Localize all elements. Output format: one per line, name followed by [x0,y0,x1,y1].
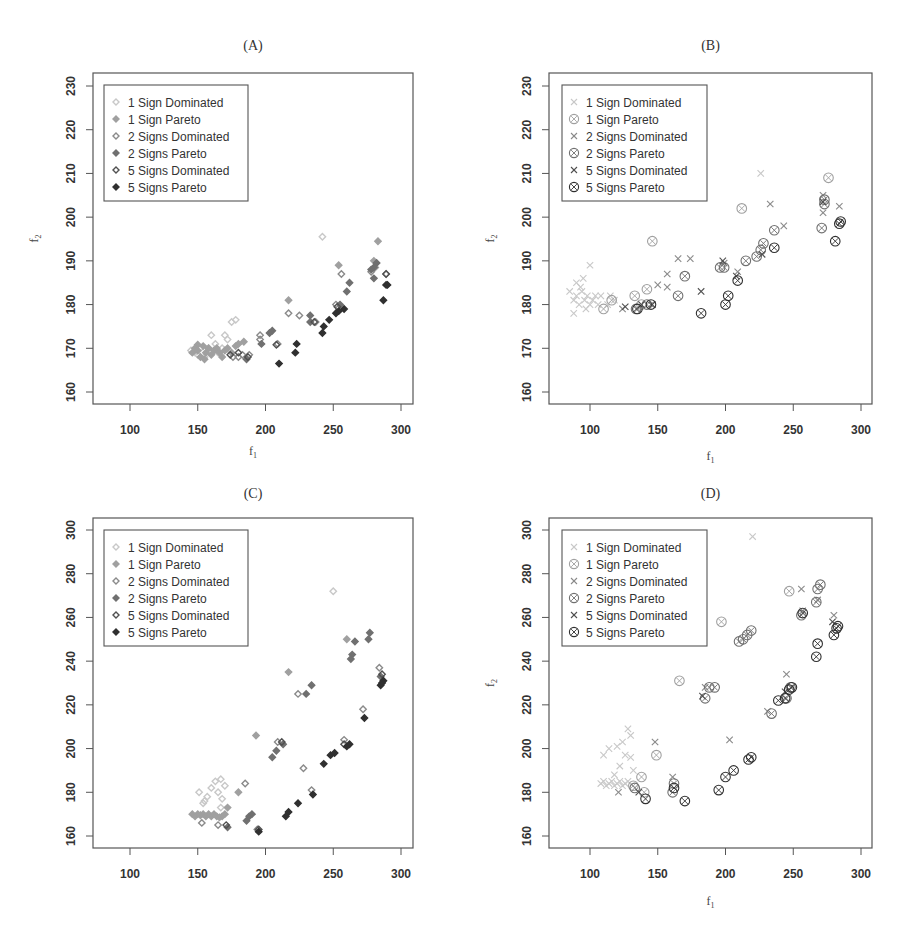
legend-entry: 5 Signs Pareto [128,181,207,195]
y-tick-label: 160 [64,382,78,402]
x-tick-label: 200 [255,867,275,881]
legend-entry: 1 Sign Pareto [586,558,659,572]
y-tick-label: 300 [64,520,78,540]
legend: 1 Sign Dominated1 Sign Pareto2 Signs Dom… [562,530,707,646]
y-tick-label: 220 [520,695,534,715]
y-tick-label: 240 [64,651,78,671]
x-axis: 100150200250300 [580,848,871,881]
x-tick-label: 300 [851,867,871,881]
legend-entry: 2 Signs Dominated [128,575,229,589]
series-1-sign-pareto [189,636,350,821]
x-tick-label: 100 [580,867,600,881]
x-tick-label: 200 [715,867,735,881]
series-5-signs-pareto [633,217,846,318]
y-tick-label: 170 [64,338,78,358]
panel-d: (D)1001502002503001601802002202402602803… [483,486,872,910]
y-tick-label: 220 [64,695,78,715]
y-tick-label: 200 [64,738,78,758]
y-tick-label: 160 [520,826,534,846]
legend-entry: 5 Signs Dominated [128,164,229,178]
x-tick-label: 100 [580,423,600,437]
y-tick-label: 260 [520,607,534,627]
legend-entry: 2 Signs Dominated [586,575,687,589]
panel-title: (C) [244,486,263,502]
series-5-signs-pareto [276,282,391,367]
y-tick-label: 180 [64,782,78,802]
y-tick-label: 200 [64,207,78,227]
legend-entry: 1 Sign Dominated [586,96,681,110]
legend-entry: 2 Signs Pareto [128,592,207,606]
panel-b: (B)1001502002503001601701801902002102202… [483,38,872,465]
y-axis: 160170180190200210220230 [520,76,549,402]
series-2-signs-pareto [224,630,384,831]
x-axis: 100150200250300 [120,404,411,437]
y-tick-label: 300 [520,520,534,540]
y-tick-label: 220 [64,119,78,139]
y-tick-label: 240 [520,651,534,671]
x-tick-label: 100 [120,423,140,437]
y-tick-label: 200 [520,738,534,758]
x-tick-label: 250 [323,867,343,881]
x-axis: 100150200250300 [580,404,871,437]
y-axis: 160170180190200210220230 [64,76,93,402]
legend: 1 Sign Dominated1 Sign Pareto2 Signs Dom… [104,530,248,646]
y-tick-label: 180 [520,782,534,802]
x-tick-label: 100 [120,867,140,881]
y-axis: 160180200220240260280300 [520,520,549,846]
panel-title: (B) [701,38,720,54]
x-axis-label: f1 [707,449,715,465]
y-tick-label: 180 [520,294,534,314]
legend-entry: 5 Signs Dominated [586,164,687,178]
legend-entry: 2 Signs Pareto [586,147,665,161]
y-tick-label: 220 [520,119,534,139]
legend: 1 Sign Dominated1 Sign Pareto2 Signs Dom… [562,85,707,201]
legend-entry: 2 Signs Dominated [586,130,687,144]
x-tick-label: 250 [783,423,803,437]
y-tick-label: 180 [64,294,78,314]
y-axis-label: f2 [483,679,499,687]
x-tick-label: 150 [648,867,668,881]
legend-entry: 2 Signs Pareto [586,592,665,606]
legend-entry: 1 Sign Dominated [128,541,223,555]
y-tick-label: 160 [520,382,534,402]
x-tick-label: 250 [323,423,343,437]
y-tick-label: 200 [520,207,534,227]
panel-a: (A)1001502002503001601701801902002102202… [27,38,413,460]
x-tick-label: 150 [648,423,668,437]
legend-entry: 2 Signs Dominated [128,130,229,144]
data-points [188,234,391,367]
y-axis-label: f2 [483,235,499,243]
y-tick-label: 190 [520,251,534,271]
y-tick-label: 280 [64,563,78,583]
series-2-signs-dominated [619,192,842,312]
y-axis: 160180200220240260280300 [64,520,93,846]
figure: (A)1001502002503001601701801902002102202… [0,0,913,941]
legend-entry: 5 Signs Pareto [586,181,665,195]
legend-entry: 2 Signs Pareto [128,147,207,161]
legend-entry: 5 Signs Dominated [586,609,687,623]
y-tick-label: 210 [64,163,78,183]
legend-entry: 1 Sign Dominated [128,96,223,110]
y-tick-label: 260 [64,607,78,627]
x-tick-label: 250 [783,867,803,881]
y-tick-label: 230 [64,76,78,96]
y-tick-label: 170 [520,338,534,358]
panel-title: (A) [243,38,263,54]
y-tick-label: 190 [64,251,78,271]
legend-entry: 5 Signs Dominated [128,609,229,623]
y-tick-label: 160 [64,826,78,846]
legend-entry: 1 Sign Dominated [586,541,681,555]
series-2-signs-pareto [631,195,829,314]
x-tick-label: 200 [715,423,735,437]
x-axis-label: f1 [249,444,257,460]
x-tick-label: 200 [255,423,275,437]
panel-title: (D) [701,486,721,502]
x-axis: 100150200250300 [120,848,411,881]
legend-entry: 1 Sign Pareto [128,558,201,572]
y-tick-label: 230 [520,76,534,96]
y-axis-label: f2 [27,235,43,243]
x-tick-label: 300 [851,423,871,437]
y-tick-label: 210 [520,163,534,183]
legend-entry: 5 Signs Pareto [128,626,207,640]
legend-entry: 1 Sign Pareto [586,113,659,127]
